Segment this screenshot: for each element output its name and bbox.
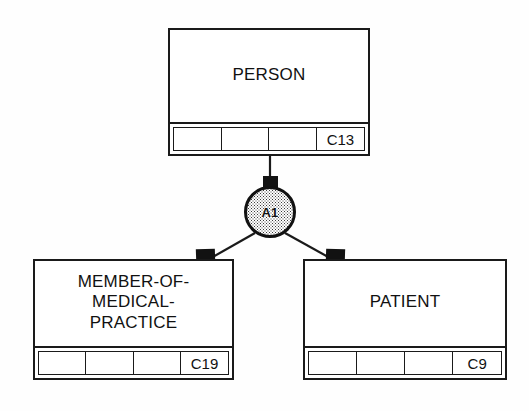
attribute-cell-code[interactable]: C13 bbox=[316, 127, 365, 151]
entity-member-of-medical-practice-title: MEMBER-OF- MEDICAL- PRACTICE bbox=[35, 261, 232, 346]
entity-patient-attribute-row: C9 bbox=[305, 346, 505, 378]
entity-member-attribute-row: C19 bbox=[35, 346, 232, 378]
attribute-cell[interactable] bbox=[173, 127, 222, 151]
entity-member-of-medical-practice[interactable]: MEMBER-OF- MEDICAL- PRACTICE C19 bbox=[33, 259, 234, 380]
connector-line-a1-member bbox=[211, 233, 255, 258]
attribute-cell[interactable] bbox=[356, 351, 406, 375]
entity-patient[interactable]: PATIENT C9 bbox=[303, 259, 507, 380]
entity-patient-title: PATIENT bbox=[305, 261, 505, 346]
attribute-cell[interactable] bbox=[404, 351, 454, 375]
attribute-cell[interactable] bbox=[38, 351, 87, 375]
relationship-node-a1[interactable]: A1 bbox=[244, 186, 296, 238]
entity-person-title: PERSON bbox=[170, 30, 368, 122]
entity-person-attribute-row: C13 bbox=[170, 122, 368, 154]
attribute-cell[interactable] bbox=[85, 351, 134, 375]
attribute-cell[interactable] bbox=[133, 351, 182, 375]
relationship-node-a1-label: A1 bbox=[261, 205, 278, 220]
attribute-cell-code[interactable]: C19 bbox=[180, 351, 229, 375]
diagram-canvas: PERSON C13 A1 MEMBER-OF- MEDICAL- PRACTI… bbox=[0, 0, 529, 411]
entity-person[interactable]: PERSON C13 bbox=[168, 28, 370, 156]
attribute-cell[interactable] bbox=[308, 351, 358, 375]
connector-line-a1-patient bbox=[285, 233, 330, 258]
attribute-cell[interactable] bbox=[268, 127, 317, 151]
attribute-cell-code[interactable]: C9 bbox=[452, 351, 502, 375]
attribute-cell[interactable] bbox=[221, 127, 270, 151]
